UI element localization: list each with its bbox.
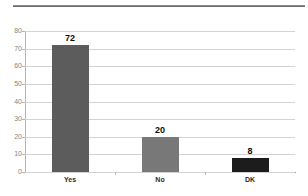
gridline	[25, 31, 295, 32]
x-axis-category-label-yes: Yes	[45, 176, 95, 184]
y-axis-tick-labels: 80706050403020100	[0, 0, 22, 196]
y-axis-tick-label: 70	[4, 45, 22, 53]
bar-value-label-dk: 8	[230, 146, 270, 156]
y-axis-tick-label: 10	[4, 150, 22, 158]
y-axis-tick-label: 50	[4, 80, 22, 88]
bar-value-label-no: 20	[140, 125, 180, 135]
y-axis-tick-label: 20	[4, 133, 22, 141]
y-axis-tick-label: 60	[4, 62, 22, 70]
horizontal-divider-rule	[13, 5, 305, 7]
gridline	[25, 172, 295, 173]
x-axis-tick-mark	[115, 172, 116, 175]
bar-dk	[232, 158, 269, 172]
bar-chart-figure: 80706050403020100 72208 YesNoDK	[0, 0, 308, 196]
y-axis-tick-label: 0	[4, 168, 22, 176]
x-axis-tick-mark	[205, 172, 206, 175]
y-axis-tick-label: 30	[4, 115, 22, 123]
bar-no	[142, 137, 179, 172]
y-axis-tick-label: 80	[4, 27, 22, 35]
x-axis-category-label-no: No	[135, 176, 185, 184]
bar-yes	[52, 45, 89, 172]
x-axis-category-label-dk: DK	[225, 176, 275, 184]
y-axis-tick-label: 40	[4, 98, 22, 106]
bar-value-label-yes: 72	[50, 33, 90, 43]
